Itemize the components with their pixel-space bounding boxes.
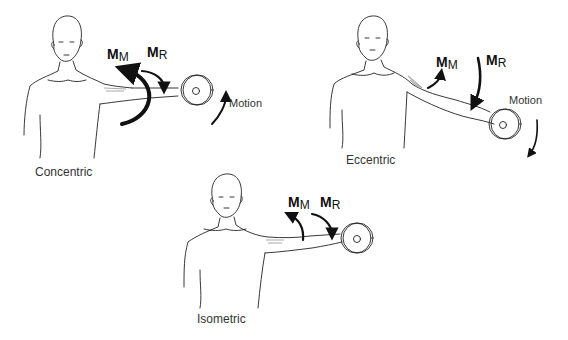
muscle-shading — [266, 240, 284, 243]
resistance-moment-arrow — [312, 214, 332, 234]
caption-concentric: Concentric — [35, 165, 92, 179]
muscle-moment-label: MM — [107, 46, 129, 64]
motion-arrow — [530, 120, 537, 154]
muscle-shading — [104, 88, 126, 91]
resistance-moment-label: MR — [486, 52, 507, 70]
figure-body — [184, 174, 342, 308]
caption-isometric: Isometric — [197, 312, 246, 326]
figure-body — [24, 16, 178, 158]
muscle-moment-arrow — [428, 74, 441, 88]
resistance-moment-label: MR — [320, 194, 341, 212]
motion-label: Motion — [229, 97, 262, 109]
contraction-types-figure: MM MR Motion Concentric MM MR — [0, 0, 568, 340]
motion-label: Motion — [509, 94, 542, 106]
muscle-moment-arrow — [290, 215, 303, 240]
dumbbell — [341, 223, 373, 253]
panel-eccentric: MM MR Motion Eccentric — [330, 16, 542, 167]
caption-eccentric: Eccentric — [346, 153, 395, 167]
muscle-moment-label: MM — [288, 194, 310, 212]
muscle-moment-label: MM — [436, 54, 458, 72]
motion-arrow — [212, 96, 226, 124]
panel-isometric: MM MR Isometric — [184, 174, 373, 326]
dumbbell — [181, 75, 213, 105]
resistance-moment-arrow — [474, 58, 480, 104]
panel-concentric: MM MR Motion Concentric — [24, 16, 262, 179]
muscle-moment-arrow — [122, 70, 149, 124]
resistance-moment-label: MR — [147, 44, 168, 62]
